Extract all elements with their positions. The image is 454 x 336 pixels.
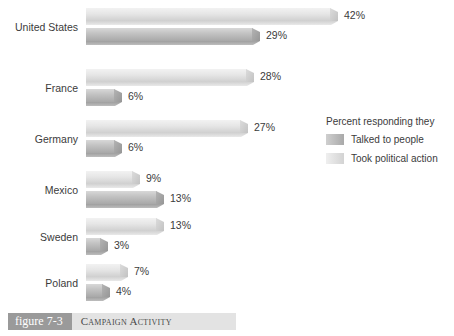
legend-label: Talked to people (351, 134, 424, 145)
bar[interactable] (86, 264, 128, 281)
bar-bottom-shadow (86, 277, 128, 281)
bar[interactable] (86, 218, 164, 235)
bar[interactable] (86, 140, 122, 157)
bar-value-label: 42% (344, 9, 365, 21)
legend-item-took-political-action: Took political action (326, 153, 454, 164)
bar-value-label: 7% (134, 265, 149, 277)
figure-caption: figure 7-3 Campaign Activity (8, 313, 236, 330)
bar-face (86, 69, 247, 82)
bar-value-label: 6% (128, 90, 143, 102)
bar-bottom-shadow (86, 153, 122, 157)
category-label-mexico: Mexico (0, 184, 78, 196)
legend-swatch-dark-icon (326, 134, 344, 145)
bar-group: France28%6% (0, 69, 454, 106)
legend-title: Percent responding they (326, 116, 454, 127)
bar-face (86, 171, 133, 184)
bar[interactable] (86, 284, 110, 301)
bar-end-bevel (240, 120, 248, 133)
bar-face (86, 238, 101, 251)
bar-face (86, 28, 253, 41)
bar-value-label: 6% (128, 141, 143, 153)
bar-face (86, 120, 241, 133)
bar-end-bevel (252, 28, 260, 41)
category-label-united-states: United States (0, 21, 78, 33)
bar-end-bevel (120, 264, 128, 277)
bar-face (86, 284, 103, 297)
bar-end-bevel (114, 89, 122, 102)
bar-value-label: 3% (114, 239, 129, 251)
bar-value-label: 28% (260, 70, 281, 82)
bar-value-label: 27% (254, 121, 275, 133)
bar-bottom-shadow (86, 21, 338, 25)
bar[interactable] (86, 171, 140, 188)
bar-value-label: 4% (116, 285, 131, 297)
bar[interactable] (86, 8, 338, 25)
bar-value-label: 13% (170, 192, 191, 204)
figure-container: United States42%29%France28%6%Germany27%… (0, 0, 454, 336)
bar-bottom-shadow (86, 102, 122, 106)
bar-group: Sweden13%3% (0, 218, 454, 255)
chart-legend: Percent responding they Talked to people… (326, 116, 454, 172)
bar-face (86, 140, 115, 153)
legend-swatch-light-icon (326, 153, 344, 164)
bar-end-bevel (132, 171, 140, 184)
bar-group: Poland7%4% (0, 264, 454, 301)
bar-face (86, 191, 157, 204)
bar-bottom-shadow (86, 184, 140, 188)
category-label-france: France (0, 82, 78, 94)
bar[interactable] (86, 89, 122, 106)
bar-end-bevel (330, 8, 338, 21)
bar-value-label: 29% (266, 29, 287, 41)
category-label-poland: Poland (0, 277, 78, 289)
bar-group: United States42%29% (0, 8, 454, 45)
bar-bottom-shadow (86, 133, 248, 137)
bar[interactable] (86, 69, 254, 86)
bar-face (86, 8, 331, 21)
figure-number-tag: figure 7-3 (8, 313, 72, 330)
bar-face (86, 264, 121, 277)
bar-end-bevel (246, 69, 254, 82)
bar-end-bevel (156, 191, 164, 204)
bar-face (86, 218, 157, 231)
bar-bottom-shadow (86, 204, 164, 208)
bar-end-bevel (102, 284, 110, 297)
bar-face (86, 89, 115, 102)
bar-value-label: 9% (146, 172, 161, 184)
bar[interactable] (86, 191, 164, 208)
figure-caption-title: Campaign Activity (72, 313, 236, 330)
legend-label: Took political action (351, 153, 438, 164)
bar-bottom-shadow (86, 82, 254, 86)
category-label-germany: Germany (0, 133, 78, 145)
bar-value-label: 13% (170, 219, 191, 231)
bar[interactable] (86, 120, 248, 137)
bar-end-bevel (100, 238, 108, 251)
bar-bottom-shadow (86, 41, 260, 45)
bar-end-bevel (114, 140, 122, 153)
bar-bottom-shadow (86, 231, 164, 235)
category-label-sweden: Sweden (0, 231, 78, 243)
bar-bottom-shadow (86, 297, 110, 301)
bar[interactable] (86, 28, 260, 45)
bar-end-bevel (156, 218, 164, 231)
legend-item-talked-to-people: Talked to people (326, 134, 454, 145)
bar-bottom-shadow (86, 251, 108, 255)
bar[interactable] (86, 238, 108, 255)
bar-group: Mexico9%13% (0, 171, 454, 208)
